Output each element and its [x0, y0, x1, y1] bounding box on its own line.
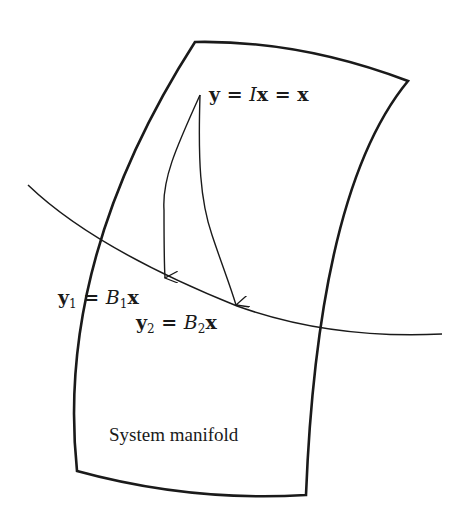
- source-lhs: y: [209, 83, 220, 105]
- target-label-y1: y1 = B1x: [58, 288, 139, 310]
- mapping-arrow-b2: [199, 95, 236, 305]
- target-label-y2: y2 = B2x: [136, 313, 217, 335]
- source-point-label: y = Ix = x: [209, 85, 309, 104]
- diagram-drawing: [0, 0, 463, 531]
- mapping-arrow-b1: [164, 95, 200, 278]
- identity-operator: I: [249, 83, 257, 105]
- constraint-curve: [28, 185, 442, 335]
- diagram-canvas: y = Ix = x y1 = B1x y2 = B2x System mani…: [0, 0, 463, 531]
- manifold-label: System manifold: [109, 425, 238, 444]
